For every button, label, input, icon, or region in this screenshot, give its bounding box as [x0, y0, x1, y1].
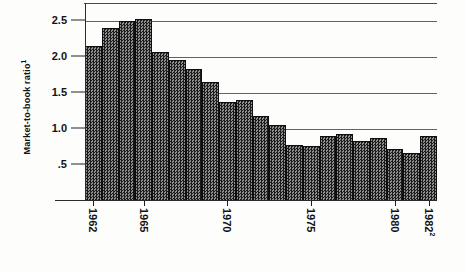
bar [353, 141, 370, 201]
y-axis-title-text: Market-to-book ratio1 [22, 60, 32, 155]
y-axis-line [85, 3, 86, 201]
x-tick-label-wrap: 1975 [304, 208, 318, 264]
bar [269, 125, 286, 201]
bar [102, 28, 119, 201]
bar [370, 138, 387, 201]
x-tick-label-text: 1965 [138, 208, 150, 232]
bar [169, 60, 186, 201]
bar [286, 145, 303, 201]
y-axis-title-superscript: 1 [20, 60, 27, 64]
bar [253, 116, 270, 201]
x-tick-label-wrap: 1962 [86, 208, 100, 264]
x-tick-mark [93, 201, 94, 206]
chart-figure: Market-to-book ratio1 2.52.01.51.0.5 196… [0, 0, 466, 273]
x-axis: 1962196519701975198019822 [85, 201, 437, 273]
x-tick-mark [144, 201, 145, 206]
bar [320, 136, 337, 201]
bar [420, 136, 437, 201]
x-tick-label: 1970 [221, 208, 233, 232]
x-tick-mark [227, 201, 228, 206]
bar [303, 146, 320, 201]
y-axis-title: Market-to-book ratio1 [16, 22, 38, 192]
x-tick-label-wrap: 1970 [220, 208, 234, 264]
bar [336, 134, 353, 201]
plot-inner: 2.52.01.51.0.5 [85, 3, 437, 201]
y-tick-mark [71, 20, 85, 21]
y-tick-mark [71, 56, 85, 57]
bar [403, 153, 420, 201]
bar [119, 21, 136, 201]
x-tick-label-text: 1982 [423, 208, 435, 232]
x-tick-label-superscript: 2 [428, 232, 435, 236]
y-tick-label: 1.5 [52, 86, 67, 99]
bar [135, 19, 152, 201]
x-tick-label-wrap: 1980 [388, 208, 402, 264]
x-tick-label-wrap: 1965 [137, 208, 151, 264]
x-tick-mark [311, 201, 312, 206]
y-axis-title-label: Market-to-book ratio [22, 63, 32, 154]
bar [186, 69, 203, 201]
bar [202, 82, 219, 201]
y-tick-label: .5 [58, 158, 67, 171]
bar [219, 102, 236, 201]
x-tick-label-text: 1975 [305, 208, 317, 232]
plot-area: 2.52.01.51.0.5 [85, 3, 437, 201]
x-tick-label: 1962 [87, 208, 99, 232]
x-tick-mark [395, 201, 396, 206]
y-tick-mark [71, 128, 85, 129]
x-tick-label: 19822 [423, 208, 435, 236]
x-tick-label: 1965 [138, 208, 150, 232]
bar [152, 52, 169, 201]
y-tick-label: 1.0 [52, 122, 67, 135]
y-tick-mark [71, 92, 85, 93]
x-tick-label-text: 1970 [221, 208, 233, 232]
x-tick-label-text: 1980 [389, 208, 401, 232]
y-tick-mark [71, 164, 85, 165]
x-tick-label-wrap: 19822 [422, 208, 436, 264]
bar [85, 46, 102, 201]
x-tick-label-text: 1962 [87, 208, 99, 232]
y-tick-label: 2.0 [52, 50, 67, 63]
x-tick-mark [429, 201, 430, 206]
y-tick-label: 2.5 [52, 14, 67, 27]
bar [236, 100, 253, 201]
x-tick-label: 1975 [305, 208, 317, 232]
x-tick-label: 1980 [389, 208, 401, 232]
bar [387, 149, 404, 201]
bars-group [85, 3, 437, 201]
